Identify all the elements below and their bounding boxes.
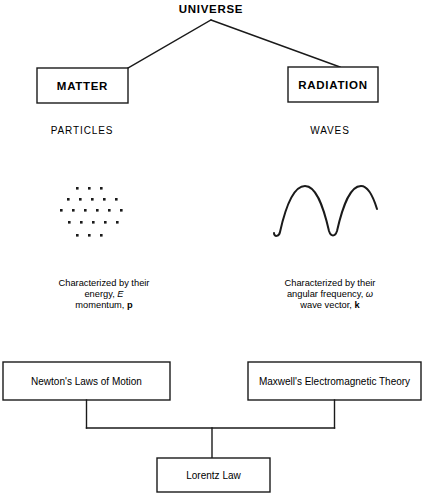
matter-desc-line3: momentum, p <box>75 300 133 310</box>
matter-desc-line2-prefix: energy, <box>84 289 117 299</box>
diagram-canvas: UNIVERSE MATTER PARTICLES <box>0 0 423 504</box>
matter-desc-line2: energy, E <box>84 289 124 299</box>
subtitle-particles: PARTICLES <box>51 125 114 136</box>
radiation-desc-line3-prefix: wave vector, <box>299 300 354 310</box>
box-newton-laws-label: Newton's Laws of Motion <box>31 376 142 387</box>
radiation-desc-line1: Characterized by their <box>285 278 376 288</box>
matter-desc-line1: Characterized by their <box>59 278 150 288</box>
connector-universe-to-radiation <box>211 20 340 67</box>
root-title: UNIVERSE <box>179 3 243 15</box>
physics-flow-diagram: UNIVERSE MATTER PARTICLES <box>0 0 423 504</box>
radiation-desc-line3: wave vector, k <box>299 300 360 310</box>
radiation-desc-line2-prefix: angular frequency, <box>287 289 366 299</box>
box-maxwell-theory-label: Maxwell's Electromagnetic Theory <box>259 376 410 387</box>
connector-universe-to-matter <box>128 20 211 68</box>
radiation-desc-line2-symbol: ω <box>366 289 373 299</box>
subtitle-waves: WAVES <box>310 125 350 136</box>
box-lorentz-law-label: Lorentz Law <box>186 470 241 481</box>
particles-dot-cloud-icon <box>60 187 123 237</box>
box-matter-label: MATTER <box>57 80 108 92</box>
sine-wave-icon <box>274 186 377 236</box>
matter-desc-line2-symbol: E <box>117 289 124 299</box>
radiation-desc-line3-symbol: k <box>355 300 361 310</box>
matter-desc-line3-symbol: p <box>127 300 133 310</box>
radiation-desc-line2: angular frequency, ω <box>287 289 373 299</box>
box-radiation-label: RADIATION <box>298 79 367 91</box>
matter-desc-line3-prefix: momentum, <box>75 300 127 310</box>
